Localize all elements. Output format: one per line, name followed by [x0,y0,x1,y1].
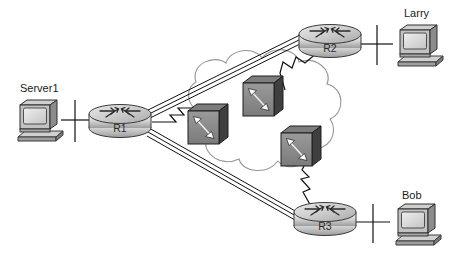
link-r3-cloud [301,160,312,208]
frame-relay-switch-icon[interactable] [188,104,228,144]
desktop-computer-icon [398,25,443,66]
router-r1-label: R1 [113,122,127,134]
desktop-computer-icon [18,100,63,141]
link-bob-r3 [356,204,390,243]
frame-relay-switch-icon[interactable] [243,76,283,116]
host-server1-label: Server1 [20,82,59,94]
desktop-computer-icon [396,204,441,245]
frame-relay-switch-icon[interactable] [281,126,321,166]
host-bob[interactable] [396,204,441,245]
router-r1[interactable]: R1 [89,105,151,138]
router-r3[interactable]: R3 [294,203,356,236]
router-r3-label: R3 [318,220,332,232]
link-larry-r2 [361,25,393,65]
diagram-canvas: R1 R2 R3 Server1 Larry Bob [0,0,450,267]
link-r2-cloud [280,52,318,90]
host-server1[interactable] [18,100,63,141]
network-topology-diagram: R1 R2 R3 Server1 Larry Bob [0,0,450,267]
host-larry-label: Larry [404,7,430,19]
host-larry[interactable] [398,25,443,66]
router-r2-label: R2 [323,42,337,54]
link-server1-r1 [61,100,90,142]
router-r2[interactable]: R2 [299,25,361,58]
host-bob-label: Bob [402,189,422,201]
